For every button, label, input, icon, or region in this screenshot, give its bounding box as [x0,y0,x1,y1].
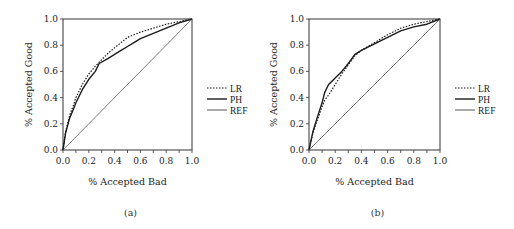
y-tick-label: 0.8 [290,40,305,50]
legend-label-lr: LR [478,84,491,94]
y-tick-label: 0.0 [290,145,305,155]
y-tick-label: 0.4 [290,93,305,103]
x-tick-label: 0.0 [56,156,71,166]
subfigure-caption: (b) [371,207,385,218]
y-tick-label: 0.6 [44,66,59,76]
legend-label-lr: LR [230,84,243,94]
legend: LRPHREF [207,84,247,116]
y-tick-label: 1.0 [290,14,305,24]
y-tick-label: 0.6 [290,66,305,76]
legend-label-ref: REF [478,106,495,116]
legend-label-ref: REF [230,106,247,116]
legend: LRPHREF [455,84,495,116]
x-tick-label: 0.0 [302,156,317,166]
y-tick-label: 0.4 [44,93,59,103]
x-tick-label: 0.4 [354,156,369,166]
y-axis-label: % Accepted Good [23,42,34,127]
chart-panel-b: 0.00.20.40.60.81.00.00.20.40.60.81.0% Ac… [268,14,495,218]
x-tick-label: 1.0 [185,156,200,166]
x-tick-label: 0.6 [380,156,395,166]
legend-label-ph: PH [478,95,490,105]
x-tick-label: 0.8 [407,156,422,166]
y-tick-label: 0.2 [44,119,58,129]
x-tick-label: 0.2 [82,156,96,166]
chart-panel-a: 0.00.20.40.60.81.00.00.20.40.60.81.0% Ac… [23,14,247,218]
y-axis-label: % Accepted Good [268,42,279,127]
x-axis-label: % Accepted Bad [335,176,414,187]
series-ref [63,19,192,150]
y-tick-label: 0.0 [44,145,59,155]
legend-label-ph: PH [230,95,242,105]
x-tick-label: 0.8 [159,156,174,166]
subfigure-caption: (a) [124,207,137,218]
x-tick-label: 0.4 [107,156,122,166]
x-axis-label: % Accepted Bad [88,176,167,187]
y-tick-label: 0.2 [290,119,304,129]
y-tick-label: 0.8 [44,40,59,50]
x-tick-label: 1.0 [433,156,448,166]
figure: 0.00.20.40.60.81.00.00.20.40.60.81.0% Ac… [0,0,514,229]
x-tick-label: 0.6 [133,156,148,166]
y-tick-label: 1.0 [44,14,59,24]
x-tick-label: 0.2 [328,156,342,166]
